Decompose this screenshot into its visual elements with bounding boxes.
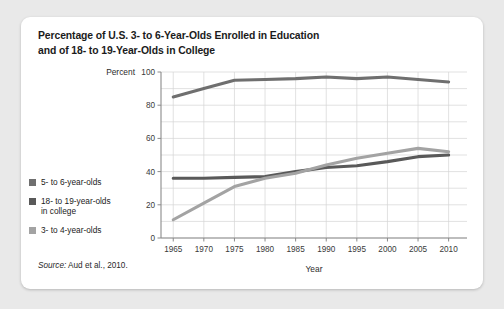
x-tick-label: 1975 xyxy=(225,245,244,254)
plot-area: 0204060801001965197019751980198519901995… xyxy=(21,17,483,289)
y-tick-label: 60 xyxy=(146,134,156,143)
x-axis-title: Year xyxy=(306,264,323,274)
x-tick-label: 1970 xyxy=(195,245,214,254)
y-tick-label: 40 xyxy=(146,168,156,177)
legend-swatch-icon xyxy=(29,179,36,186)
chart-legend: 5- to 6-year-olds18- to 19-year-olds in … xyxy=(29,177,149,243)
y-axis-title: Percent xyxy=(106,67,136,77)
legend-item-label: 3- to 4-year-olds xyxy=(41,225,101,236)
legend-item: 3- to 4-year-olds xyxy=(29,225,149,236)
y-tick-label: 100 xyxy=(141,68,155,77)
legend-item-label: 18- to 19-year-olds in college xyxy=(41,196,111,217)
y-tick-label: 0 xyxy=(150,234,155,243)
source-citation: Aud et al., 2010. xyxy=(68,261,128,270)
source-note: Source: Aud et al., 2010. xyxy=(38,261,128,270)
y-tick-label: 80 xyxy=(146,101,156,110)
x-tick-label: 1965 xyxy=(164,245,183,254)
axis-ticks: 0204060801001965197019751980198519901995… xyxy=(141,68,458,254)
x-tick-label: 2000 xyxy=(378,245,397,254)
x-tick-label: 1995 xyxy=(348,245,367,254)
x-tick-label: 2010 xyxy=(440,245,459,254)
series-line xyxy=(173,77,448,97)
x-tick-label: 1980 xyxy=(256,245,275,254)
legend-item-label: 5- to 6-year-olds xyxy=(41,177,101,188)
x-tick-label: 1990 xyxy=(317,245,336,254)
source-word: Source: xyxy=(38,261,66,270)
x-tick-label: 1985 xyxy=(287,245,306,254)
series-line xyxy=(173,155,448,178)
data-series xyxy=(173,77,448,220)
line-chart: 0204060801001965197019751980198519901995… xyxy=(21,17,483,289)
figure-card: Percentage of U.S. 3- to 6-Year-Olds Enr… xyxy=(21,17,483,289)
x-tick-label: 2005 xyxy=(409,245,428,254)
legend-swatch-icon xyxy=(29,227,36,234)
legend-swatch-icon xyxy=(29,198,36,205)
legend-item: 18- to 19-year-olds in college xyxy=(29,196,149,217)
legend-item: 5- to 6-year-olds xyxy=(29,177,149,188)
